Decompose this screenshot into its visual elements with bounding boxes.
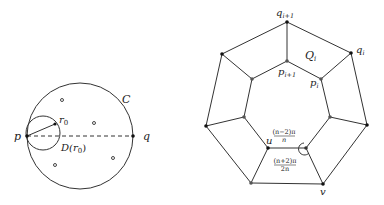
vertex-outer bbox=[249, 181, 253, 185]
label-p-i: pi bbox=[310, 77, 319, 90]
point-p bbox=[25, 134, 29, 138]
label-D-r0: D(r0) bbox=[60, 142, 86, 155]
vertex-q-next bbox=[285, 20, 289, 24]
label-Q-i: Qi bbox=[305, 49, 316, 63]
vertex-p-i bbox=[319, 77, 323, 81]
label-p: p bbox=[14, 130, 21, 143]
point-q bbox=[131, 134, 135, 138]
label-q-next: qi+1 bbox=[276, 7, 294, 20]
sample-point bbox=[54, 164, 57, 167]
label-v: v bbox=[320, 186, 326, 197]
sample-point bbox=[61, 99, 64, 102]
spoke bbox=[222, 54, 252, 79]
label-q: q bbox=[143, 130, 150, 143]
label-C: C bbox=[122, 93, 131, 106]
vertex-p-next bbox=[285, 59, 289, 63]
vertex-inner bbox=[250, 77, 254, 81]
vertex-inner bbox=[328, 115, 332, 119]
label-q-i: qi bbox=[356, 44, 365, 57]
angle-bottom-numerator: (n+2)π bbox=[273, 157, 297, 165]
vertex-outer bbox=[365, 123, 369, 127]
vertex-q-i bbox=[349, 51, 353, 55]
vertex-angle bbox=[304, 146, 308, 150]
sample-point bbox=[112, 157, 115, 160]
spoke bbox=[330, 117, 367, 125]
diagram-canvas: p q C r0 D(r0) qi+1 qi Qi bbox=[0, 0, 384, 205]
spoke bbox=[251, 148, 268, 183]
vertex-inner bbox=[242, 115, 246, 119]
label-r0: r0 bbox=[59, 114, 68, 127]
vertex-outer bbox=[220, 52, 224, 56]
radius-segment-p-r0 bbox=[27, 124, 55, 136]
vertex-u bbox=[266, 146, 270, 150]
circle-D-r0 bbox=[26, 116, 60, 150]
label-p-next: pi+1 bbox=[278, 66, 296, 79]
angle-top-denominator: n bbox=[282, 136, 286, 144]
label-u: u bbox=[266, 135, 272, 146]
sample-point bbox=[93, 122, 96, 125]
point-r0 bbox=[53, 122, 56, 125]
vertex-outer bbox=[204, 124, 208, 128]
spoke bbox=[321, 53, 351, 79]
angle-top-numerator: (n−2)π bbox=[272, 128, 296, 136]
left-figure: p q C r0 D(r0) bbox=[14, 83, 150, 189]
spoke bbox=[206, 117, 244, 126]
angle-bottom-denominator: 2n bbox=[281, 165, 289, 173]
